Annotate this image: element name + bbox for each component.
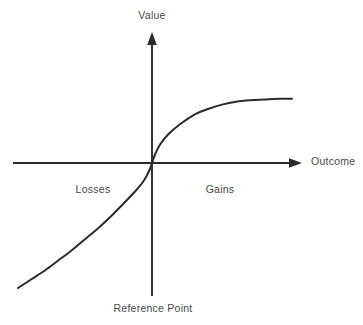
y-axis-arrow-icon (147, 32, 157, 45)
reference-point-label: Reference Point (113, 302, 192, 315)
x-axis-label: Outcome (311, 155, 355, 168)
prospect-theory-value-function-chart: Value Outcome Losses Gains Reference Poi… (0, 0, 363, 325)
losses-region-label: Losses (76, 183, 111, 196)
chart-canvas (0, 0, 363, 325)
gains-region-label: Gains (206, 183, 235, 196)
y-axis-label: Value (138, 9, 165, 22)
value-function-curve (18, 99, 292, 288)
x-axis-arrow-icon (289, 158, 302, 168)
